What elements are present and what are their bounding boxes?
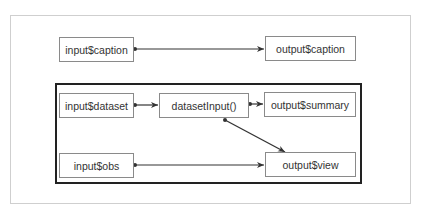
node-output-summary: output$summary — [264, 92, 356, 117]
edge-dataset-input-to-output-view — [223, 118, 285, 152]
node-input-caption: input$caption — [59, 37, 134, 62]
node-label: datasetInput() — [172, 100, 237, 112]
edge-input-caption-to-output-caption — [133, 47, 264, 51]
edge-input-obs-to-output-view — [133, 163, 264, 167]
node-label: input$dataset — [65, 100, 128, 112]
node-dataset-input: datasetInput() — [159, 93, 249, 118]
edge-dataset-input-to-output-summary — [248, 102, 263, 106]
node-output-caption: output$caption — [265, 36, 356, 61]
node-output-view: output$view — [265, 152, 356, 177]
node-input-obs: input$obs — [59, 153, 134, 178]
node-label: input$caption — [65, 44, 127, 56]
node-label: output$view — [282, 159, 338, 171]
node-label: input$obs — [74, 160, 120, 172]
node-input-dataset: input$dataset — [59, 93, 134, 118]
edge-input-dataset-to-dataset-input — [133, 103, 158, 107]
node-label: output$caption — [276, 43, 345, 55]
node-label: output$summary — [271, 99, 349, 111]
